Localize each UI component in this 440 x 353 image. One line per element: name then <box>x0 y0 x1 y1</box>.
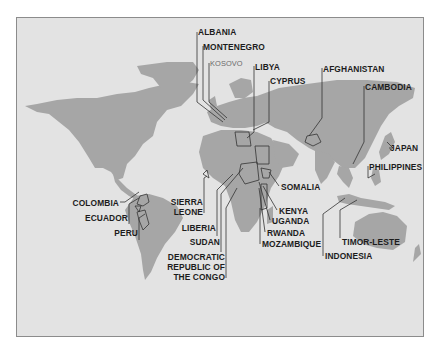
label-montenegro: MONTENEGRO <box>203 42 265 52</box>
label-kenya: KENYA <box>279 206 308 216</box>
label-philippines: PHILIPPINES <box>369 162 422 172</box>
label-cyprus: CYPRUS <box>270 76 306 86</box>
label-kosovo: KOSOVO <box>210 59 243 69</box>
new-zealand <box>413 244 421 262</box>
north-america <box>25 82 199 180</box>
scandinavia <box>229 78 253 98</box>
label-drc-line2: REPUBLIC OF <box>167 262 225 272</box>
label-libya: LIBYA <box>255 62 280 72</box>
label-indonesia: INDONESIA <box>325 251 372 261</box>
label-uganda: UGANDA <box>272 216 309 226</box>
label-liberia: LIBERIA <box>167 223 216 233</box>
southeast-asia <box>337 166 353 188</box>
indonesia-islands <box>337 194 395 210</box>
label-sierra-leone-line2: LEONE <box>167 207 203 217</box>
label-albania: ALBANIA <box>198 27 236 37</box>
label-mozambique: MOZAMBIQUE <box>262 239 321 249</box>
label-afghanistan: AFGHANISTAN <box>323 64 384 74</box>
map-frame: ALBANIA MONTENEGRO KOSOVO LIBYA CYPRUS A… <box>16 17 424 337</box>
label-peru: PERU <box>97 228 138 238</box>
label-drc-line3: THE CONGO <box>167 272 225 282</box>
label-drc-line1: DEMOCRATIC <box>167 252 225 262</box>
label-sudan: SUDAN <box>177 237 220 247</box>
label-colombia: COLOMBIA <box>57 198 119 208</box>
label-somalia: SOMALIA <box>281 182 320 192</box>
label-sierra-leone-line1: SIERRA <box>167 197 203 207</box>
landmasses <box>25 62 421 280</box>
label-rwanda: RWANDA <box>267 228 305 238</box>
label-cambodia: CAMBODIA <box>365 82 412 92</box>
label-japan: JAPAN <box>390 143 418 153</box>
label-ecuador: ECUADOR <box>67 213 128 223</box>
label-timor-leste: TIMOR-LESTE <box>342 237 400 247</box>
